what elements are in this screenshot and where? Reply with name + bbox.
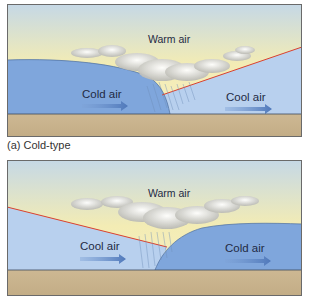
cold-air-label: Cold air <box>225 242 265 254</box>
ground <box>7 114 302 136</box>
warm-air-label: Warm air <box>148 187 190 199</box>
warm-type-occlusion-illustration <box>7 160 302 296</box>
diagram-panel-cold-type: Warm air Cold air Cool air <box>7 4 302 137</box>
cold-air-label: Cold air <box>82 88 122 100</box>
cold-type-occlusion-illustration <box>7 4 302 137</box>
cool-air-label: Cool air <box>80 240 120 252</box>
ground <box>7 270 302 295</box>
diagram-panel-warm-type: Warm air Cool air Cold air <box>7 160 302 296</box>
caption-cold-type: (a) Cold-type <box>7 139 71 151</box>
warm-air-label: Warm air <box>148 33 190 45</box>
cool-air-label: Cool air <box>226 91 266 103</box>
